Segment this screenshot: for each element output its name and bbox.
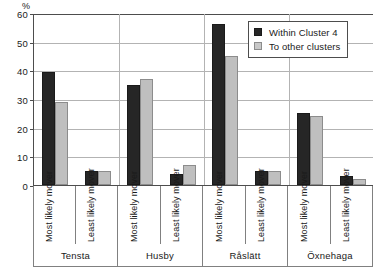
bar-chart: % 0102030405060 Within Cluster 4 To othe…	[0, 0, 381, 276]
legend-label-series-1: Within Cluster 4	[269, 27, 338, 38]
y-tick-label: 60	[0, 9, 28, 20]
bar-to-other-clusters	[353, 179, 366, 185]
x-tick-label: Most likely mover	[44, 171, 54, 242]
legend-label-series-2: To other clusters	[269, 41, 340, 52]
y-tick-mark	[30, 129, 33, 130]
group-label: Råslätt	[230, 250, 261, 261]
group-separator	[119, 14, 120, 185]
x-tick-label: Most likely mover	[214, 171, 224, 242]
y-tick-label: 0	[0, 181, 28, 192]
bar-within-cluster-4	[212, 24, 225, 185]
y-tick-mark	[30, 43, 33, 44]
bar-to-other-clusters	[183, 165, 196, 185]
y-tick-label: 20	[0, 123, 28, 134]
x-tick-cell: Most likely mover	[203, 186, 246, 244]
x-tick-cell: Most likely mover	[118, 186, 161, 244]
axis-bottom-rule	[33, 266, 373, 267]
x-tick-cell: Least likely mover	[161, 186, 204, 244]
bar-to-other-clusters	[55, 102, 68, 185]
x-tick-cell: Least likely mover	[331, 186, 374, 244]
chart-legend: Within Cluster 4 To other clusters	[248, 21, 348, 58]
x-tick-label: Most likely mover	[299, 171, 309, 242]
group-cell: Öxnehaga	[288, 244, 373, 266]
x-axis-group-labels: TenstaHusbyRåslättÖxnehaga	[33, 244, 373, 268]
y-tick-label: 50	[0, 37, 28, 48]
x-axis-tick-labels: Most likely moverLeast likely moverMost …	[33, 186, 373, 244]
y-tick-mark	[30, 157, 33, 158]
group-cell: Tensta	[33, 244, 118, 266]
x-tick-cell: Least likely mover	[76, 186, 119, 244]
bar-to-other-clusters	[310, 116, 323, 185]
legend-item-to-other-clusters: To other clusters	[254, 39, 340, 53]
x-tick-label: Least likely mover	[86, 168, 96, 242]
legend-item-within-cluster-4: Within Cluster 4	[254, 25, 340, 39]
x-tick-cell: Least likely mover	[246, 186, 289, 244]
group-label: Tensta	[61, 250, 90, 261]
group-separator	[204, 14, 205, 185]
group-cell: Råslätt	[203, 244, 288, 266]
legend-swatch-dark-icon	[254, 28, 262, 36]
y-tick-mark	[30, 100, 33, 101]
bar-to-other-clusters	[225, 56, 238, 185]
legend-swatch-light-icon	[254, 42, 262, 50]
x-tick-cell: Most likely mover	[33, 186, 76, 244]
x-tick-label: Least likely mover	[341, 168, 351, 242]
x-tick-label: Least likely mover	[171, 168, 181, 242]
bar-to-other-clusters	[140, 79, 153, 185]
bar-to-other-clusters	[98, 171, 111, 185]
x-tick-label: Least likely mover	[256, 168, 266, 242]
group-label: Husby	[146, 250, 174, 261]
y-tick-mark	[30, 71, 33, 72]
group-label: Öxnehaga	[307, 250, 352, 261]
x-tick-label: Most likely mover	[129, 171, 139, 242]
x-tick-cell: Most likely mover	[288, 186, 331, 244]
y-tick-label: 30	[0, 95, 28, 106]
y-tick-label: 10	[0, 152, 28, 163]
y-tick-label: 40	[0, 66, 28, 77]
group-cell: Husby	[118, 244, 203, 266]
bar-within-cluster-4	[42, 72, 55, 185]
y-tick-mark	[30, 14, 33, 15]
bar-to-other-clusters	[268, 171, 281, 185]
